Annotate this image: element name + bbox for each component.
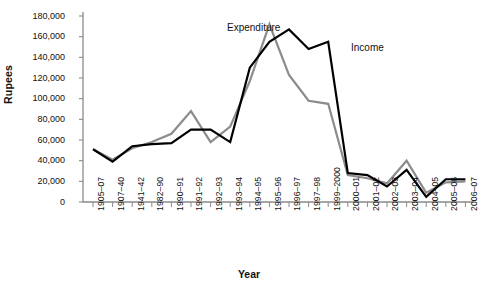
x-tick-label: 1905–07 bbox=[96, 177, 106, 211]
x-tick-label: 2002–03 bbox=[390, 177, 400, 211]
x-tick-label: 1941–42 bbox=[136, 177, 146, 211]
x-tick-label: 2000–01 bbox=[351, 177, 361, 211]
x-tick-label: 2004–05 bbox=[430, 177, 440, 211]
x-tick-label: 1992–93 bbox=[214, 177, 224, 211]
x-tick-label: 1997–98 bbox=[312, 177, 322, 211]
x-tick-label: 2001–02 bbox=[371, 177, 381, 211]
x-tick-label: 2005–06 bbox=[449, 177, 459, 211]
x-tick-label: 2006–07 bbox=[469, 177, 479, 211]
x-tick-label: 1993–94 bbox=[234, 177, 244, 211]
x-tick-label: 1991–92 bbox=[194, 177, 204, 211]
chart-root: Rupees Year 020,00040,00060,00080,000100… bbox=[0, 0, 498, 293]
x-tick-label: 1995–96 bbox=[273, 177, 283, 211]
x-tick-label: 1996–97 bbox=[292, 177, 302, 211]
x-tick-label: 1994–95 bbox=[253, 177, 263, 211]
chart-plot-area bbox=[0, 0, 498, 293]
series-annotation: Expenditure bbox=[227, 22, 280, 33]
series-annotation: Income bbox=[351, 42, 384, 53]
x-tick-label: 1999–2000 bbox=[332, 167, 342, 211]
series-line-income bbox=[93, 29, 465, 196]
x-tick-label: 1990–91 bbox=[175, 177, 185, 211]
x-tick-label: 2003–04 bbox=[410, 177, 420, 211]
x-tick-label: 1982–90 bbox=[155, 177, 165, 211]
x-tick-label: 1907–40 bbox=[116, 177, 126, 211]
series-line-expenditure bbox=[93, 24, 465, 192]
